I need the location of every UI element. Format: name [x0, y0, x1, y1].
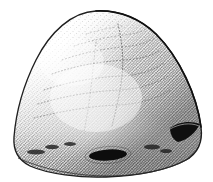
- shell-illustration: [0, 0, 213, 182]
- figure-root: Shell: [0, 0, 213, 182]
- upper-left-highlight: [40, 38, 104, 86]
